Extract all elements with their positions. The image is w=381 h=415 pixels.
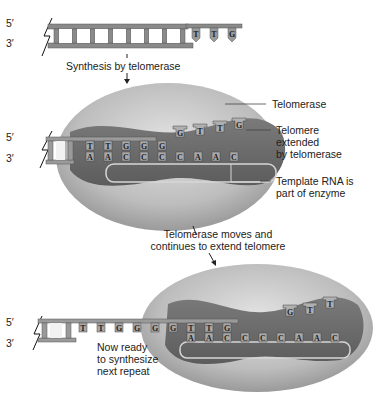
svg-text:C: C: [159, 153, 165, 162]
svg-text:C: C: [177, 153, 183, 162]
svg-text:G: G: [141, 142, 147, 151]
svg-text:G: G: [134, 324, 140, 333]
svg-text:C: C: [123, 153, 129, 162]
five-prime-label: 5′: [6, 316, 14, 328]
svg-text:T: T: [217, 124, 223, 133]
svg-text:C: C: [141, 153, 147, 162]
three-prime-label: 3′: [6, 337, 14, 349]
telomere-extended-callout: Telomere extended by telomerase: [276, 124, 342, 160]
svg-text:T: T: [80, 324, 86, 333]
svg-text:A: A: [105, 153, 111, 162]
five-prime-label: 5′: [6, 17, 14, 29]
stage1-dna: T T G: [42, 18, 242, 56]
svg-text:G: G: [177, 129, 183, 138]
svg-text:T: T: [98, 324, 104, 333]
svg-text:G: G: [152, 324, 158, 333]
svg-text:G: G: [123, 142, 129, 151]
arrow-down-icon: [124, 79, 130, 84]
svg-text:A: A: [296, 334, 302, 343]
svg-text:A: A: [188, 334, 194, 343]
svg-text:A: A: [195, 153, 201, 162]
five-prime-label: 5′: [6, 131, 14, 143]
next-repeat-note: Now ready to synthesize next repeat: [97, 341, 158, 377]
base-G: G: [229, 30, 235, 39]
telomerase-callout: Telomerase: [272, 98, 326, 110]
svg-text:T: T: [206, 324, 212, 333]
svg-text:G: G: [116, 324, 122, 333]
svg-text:T: T: [307, 306, 313, 315]
three-prime-label: 3′: [6, 37, 14, 49]
base-T: T: [211, 30, 217, 39]
svg-text:C: C: [231, 153, 237, 162]
svg-text:G: G: [159, 142, 165, 151]
svg-text:G: G: [170, 324, 176, 333]
svg-text:C: C: [242, 334, 248, 343]
three-prime-label: 3′: [6, 152, 14, 164]
svg-text:C: C: [332, 334, 338, 343]
base-T: T: [193, 30, 199, 39]
svg-text:G: G: [236, 121, 242, 130]
svg-text:A: A: [206, 334, 212, 343]
svg-text:T: T: [188, 324, 194, 333]
svg-text:T: T: [105, 142, 111, 151]
svg-text:A: A: [314, 334, 320, 343]
svg-text:G: G: [224, 324, 230, 333]
svg-text:C: C: [260, 334, 266, 343]
svg-text:C: C: [278, 334, 284, 343]
synthesis-label: Synthesis by telomerase: [66, 60, 180, 72]
moves-label: Telomerase moves and continues to extend…: [138, 228, 298, 252]
svg-text:T: T: [197, 127, 203, 136]
svg-text:G: G: [287, 308, 293, 317]
svg-text:C: C: [224, 334, 230, 343]
svg-text:T: T: [327, 300, 333, 309]
svg-text:A: A: [87, 153, 93, 162]
svg-text:A: A: [213, 153, 219, 162]
template-rna-callout: Template RNA is part of enzyme: [276, 175, 354, 199]
break-icon: [42, 18, 52, 56]
svg-text:T: T: [87, 142, 93, 151]
telomerase-diagram: T T G T T G G G: [0, 0, 381, 415]
